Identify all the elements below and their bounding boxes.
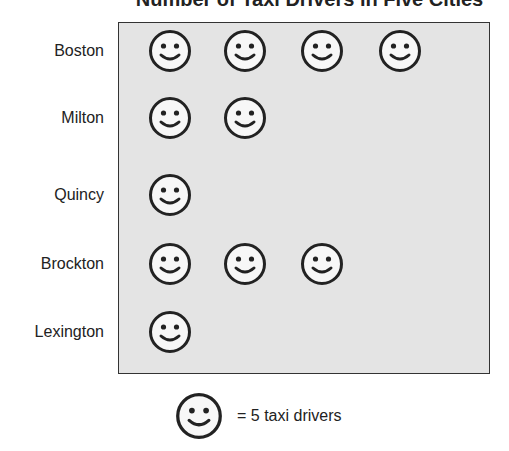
smiley-face-icon xyxy=(148,96,192,140)
smiley-face-icon xyxy=(300,242,344,286)
row-label: Brockton xyxy=(41,255,104,273)
smiley-face-icon xyxy=(148,29,192,73)
smiley-face-icon xyxy=(378,29,422,73)
smiley-face-icon xyxy=(300,29,344,73)
smiley-face-icon xyxy=(223,29,267,73)
smiley-face-icon xyxy=(223,242,267,286)
smiley-face-icon xyxy=(148,310,192,354)
chart-title: Number of Taxi Drivers in Five Cities xyxy=(0,0,509,11)
row-label: Milton xyxy=(61,109,104,127)
legend-label: = 5 taxi drivers xyxy=(237,407,341,425)
smiley-face-icon xyxy=(148,173,192,217)
row-label: Lexington xyxy=(35,323,104,341)
smiley-face-icon xyxy=(223,96,267,140)
smiley-face-icon xyxy=(148,242,192,286)
legend: = 5 taxi drivers xyxy=(175,392,341,440)
smiley-face-icon xyxy=(175,392,223,440)
row-label: Boston xyxy=(54,42,104,60)
row-label: Quincy xyxy=(54,186,104,204)
